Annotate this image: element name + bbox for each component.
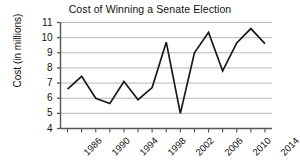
y-tick-label: 11 <box>37 18 53 28</box>
data-series-line <box>68 29 265 114</box>
y-tick-label: 5 <box>37 108 53 118</box>
y-tick-label: 4 <box>37 124 53 134</box>
y-tick-label: 8 <box>37 63 53 73</box>
y-tick-label: 10 <box>37 33 53 43</box>
y-tick-label: 9 <box>37 48 53 58</box>
y-tick-label: 6 <box>37 93 53 103</box>
y-tick-label: 7 <box>37 78 53 88</box>
senate-election-cost-chart: Cost of Winning a Senate Election Cost (… <box>0 0 300 164</box>
